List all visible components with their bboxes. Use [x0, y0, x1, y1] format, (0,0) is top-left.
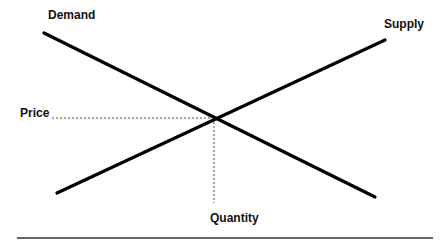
- supply-demand-diagram: [0, 0, 445, 241]
- supply-label: Supply: [384, 17, 424, 31]
- price-label: Price: [20, 106, 49, 120]
- quantity-label: Quantity: [210, 211, 259, 225]
- demand-curve: [44, 33, 375, 197]
- demand-label: Demand: [48, 8, 95, 22]
